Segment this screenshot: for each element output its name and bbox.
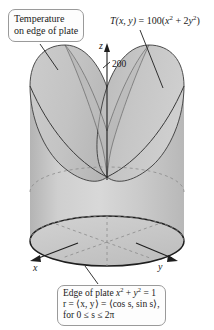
y-axis-arrowhead xyxy=(167,255,178,262)
edge-line1-equals-one: = 1 xyxy=(141,288,156,298)
equation-equals: = xyxy=(136,15,147,26)
callout-temperature-line2: on edge of plate xyxy=(14,25,78,37)
callout-temperature-line1: Temperature xyxy=(14,13,78,25)
z-axis-label: z xyxy=(99,40,103,51)
x-axis-arrowhead xyxy=(30,255,41,262)
equation-coefficient: 100( xyxy=(147,15,165,26)
plate-base xyxy=(30,216,184,266)
callout-edge-line1: Edge of plate x2 + y2 = 1 xyxy=(63,288,160,299)
three-d-scene xyxy=(0,0,214,330)
temperature-plate-figure: T(x, y) = 100(x2 + 2y2) z x y 200 Temper… xyxy=(0,0,214,330)
callout-temperature: Temperature on edge of plate xyxy=(8,9,84,42)
leader-edge-of-plate xyxy=(85,266,98,284)
x-axis-label: x xyxy=(33,262,37,273)
callout-edge-line2: r = ⟨x, y⟩ = ⟨cos s, sin s⟩, xyxy=(63,299,160,310)
edge-line1-plus: + xyxy=(123,288,133,298)
equation-close-paren: ) xyxy=(196,15,199,26)
z-tick-label-200: 200 xyxy=(112,59,126,69)
callout-edge-of-plate: Edge of plate x2 + y2 = 1 r = ⟨x, y⟩ = ⟨… xyxy=(57,285,166,326)
z-axis-arrowhead xyxy=(104,43,110,52)
surface-equation-label: T(x, y) = 100(x2 + 2y2) xyxy=(110,15,200,26)
edge-line1-prefix: Edge of plate xyxy=(63,288,116,298)
equation-arguments: (x, y) xyxy=(116,15,137,26)
y-axis-label: y xyxy=(158,261,162,272)
callout-edge-line3: for 0 ≤ s ≤ 2π xyxy=(63,310,160,321)
equation-plus: + xyxy=(173,15,184,26)
